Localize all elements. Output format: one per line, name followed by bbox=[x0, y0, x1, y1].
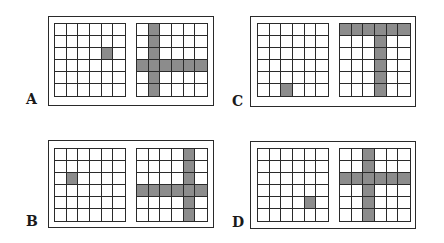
grid-cell bbox=[184, 173, 196, 185]
grid-cell bbox=[363, 48, 375, 60]
grid-cell bbox=[398, 209, 410, 221]
grid-cell bbox=[160, 173, 172, 185]
grid-cell bbox=[149, 185, 161, 197]
grid-cell bbox=[195, 209, 207, 221]
grid-cell bbox=[293, 36, 305, 48]
grid-cell bbox=[352, 185, 364, 197]
panel-b-label: B bbox=[26, 214, 38, 228]
grid-cell bbox=[160, 48, 172, 60]
grid-cell bbox=[55, 185, 67, 197]
grid-cell bbox=[281, 173, 293, 185]
grid-cell bbox=[258, 48, 270, 60]
grid-cell bbox=[281, 84, 293, 96]
grid-cell bbox=[90, 24, 102, 36]
grid-cell bbox=[184, 84, 196, 96]
grid-cell bbox=[78, 161, 90, 173]
grid-cell bbox=[55, 72, 67, 84]
grid-cell bbox=[305, 173, 317, 185]
grid-cell bbox=[195, 48, 207, 60]
grid-cell bbox=[375, 36, 387, 48]
panel-a-right-grid bbox=[136, 23, 208, 97]
grid-cell bbox=[270, 149, 282, 161]
grid-cell bbox=[184, 24, 196, 36]
grid-cell bbox=[281, 197, 293, 209]
grid-cell bbox=[352, 48, 364, 60]
panel-a-left-grid bbox=[54, 23, 126, 97]
grid-cell bbox=[352, 149, 364, 161]
grid-cell bbox=[172, 72, 184, 84]
grid-cell bbox=[398, 84, 410, 96]
grid-cell bbox=[78, 149, 90, 161]
grid-cell bbox=[305, 72, 317, 84]
grid-cell bbox=[293, 24, 305, 36]
grid-cell bbox=[387, 48, 399, 60]
grid-cell bbox=[258, 197, 270, 209]
grid-cell bbox=[316, 149, 328, 161]
grid-cell bbox=[195, 161, 207, 173]
grid-cell bbox=[137, 72, 149, 84]
grid-cell bbox=[340, 72, 352, 84]
grid-cell bbox=[149, 149, 161, 161]
grid-cell bbox=[137, 161, 149, 173]
grid-cell bbox=[375, 173, 387, 185]
grid-cell bbox=[258, 161, 270, 173]
grid-cell bbox=[55, 161, 67, 173]
grid-cell bbox=[195, 173, 207, 185]
grid-cell bbox=[363, 209, 375, 221]
grid-cell bbox=[398, 185, 410, 197]
panel-c-right-grid bbox=[339, 23, 411, 97]
grid-cell bbox=[90, 72, 102, 84]
grid-cell bbox=[305, 84, 317, 96]
grid-cell bbox=[102, 209, 114, 221]
grid-cell bbox=[398, 48, 410, 60]
panel-c-left-grid bbox=[257, 23, 329, 97]
grid-cell bbox=[149, 84, 161, 96]
grid-cell bbox=[90, 84, 102, 96]
grid-cell bbox=[352, 72, 364, 84]
grid-cell bbox=[387, 36, 399, 48]
grid-cell bbox=[363, 161, 375, 173]
grid-cell bbox=[137, 48, 149, 60]
grid-cell bbox=[281, 209, 293, 221]
grid-cell bbox=[316, 24, 328, 36]
grid-cell bbox=[67, 24, 79, 36]
grid-cell bbox=[270, 197, 282, 209]
grid-cell bbox=[270, 161, 282, 173]
grid-cell bbox=[363, 149, 375, 161]
grid-cell bbox=[363, 173, 375, 185]
grid-cell bbox=[375, 209, 387, 221]
grid-cell bbox=[281, 149, 293, 161]
grid-cell bbox=[195, 149, 207, 161]
grid-cell bbox=[149, 36, 161, 48]
grid-cell bbox=[398, 72, 410, 84]
grid-cell bbox=[137, 24, 149, 36]
grid-cell bbox=[184, 48, 196, 60]
grid-cell bbox=[398, 161, 410, 173]
grid-cell bbox=[363, 84, 375, 96]
grid-cell bbox=[363, 60, 375, 72]
grid-cell bbox=[184, 197, 196, 209]
grid-cell bbox=[398, 173, 410, 185]
grid-cell bbox=[293, 48, 305, 60]
grid-cell bbox=[398, 197, 410, 209]
grid-cell bbox=[258, 185, 270, 197]
grid-cell bbox=[293, 173, 305, 185]
grid-cell bbox=[305, 185, 317, 197]
grid-cell bbox=[281, 24, 293, 36]
grid-cell bbox=[137, 60, 149, 72]
grid-cell bbox=[184, 36, 196, 48]
grid-cell bbox=[172, 84, 184, 96]
grid-cell bbox=[398, 36, 410, 48]
grid-cell bbox=[340, 161, 352, 173]
panel-c-label: C bbox=[232, 94, 243, 108]
grid-cell bbox=[398, 24, 410, 36]
grid-cell bbox=[160, 197, 172, 209]
grid-cell bbox=[363, 72, 375, 84]
grid-cell bbox=[149, 24, 161, 36]
grid-cell bbox=[281, 161, 293, 173]
grid-cell bbox=[102, 161, 114, 173]
grid-cell bbox=[270, 84, 282, 96]
grid-cell bbox=[90, 173, 102, 185]
grid-cell bbox=[160, 72, 172, 84]
grid-cell bbox=[305, 149, 317, 161]
